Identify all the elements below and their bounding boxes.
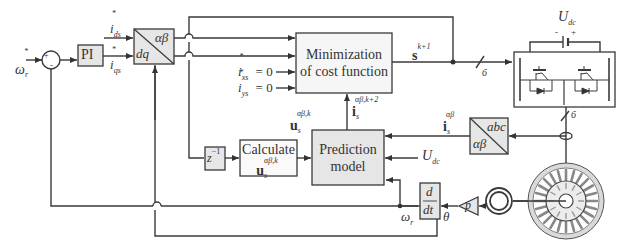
iqs-ref-label: iqs* — [110, 58, 125, 75]
dq-block-bottom-label: dq — [136, 47, 149, 60]
dc-voltage-label: Udc — [422, 149, 440, 166]
rotor-speed-label: ωr — [401, 210, 413, 227]
pole-pairs-label: p — [465, 199, 471, 211]
ids-ref-label: ids* — [110, 22, 125, 39]
calculate-label: Calculate usαβ,k — [240, 141, 297, 184]
switch-state-label: sk+1 — [412, 48, 430, 63]
inverter — [514, 52, 615, 107]
abc-block-bottom-label: αβ — [473, 137, 486, 150]
dc-plus: + — [571, 28, 576, 37]
derivative-num: d — [426, 185, 433, 198]
measured-current-label: isαβ — [443, 119, 458, 136]
dc-source-label: Udc — [558, 10, 576, 27]
pi-label: PI — [81, 48, 93, 62]
bus-width-top: 6 — [482, 68, 487, 78]
sum-plus-sign: + — [44, 52, 49, 60]
bus-width-right: 6 — [571, 110, 576, 120]
minimization-label: Minimization of cost function — [296, 46, 392, 80]
abc-block-top-label: abc — [487, 120, 506, 133]
diagram-canvas — [0, 0, 633, 243]
prediction-model-label: Prediction model — [312, 141, 384, 175]
dq-block-top-label: αβ — [155, 31, 168, 44]
rotor-angle-label: θ — [443, 210, 449, 223]
predicted-current-label: isαβ,k+2 — [352, 104, 382, 121]
speed-ref-label: ωr* — [15, 62, 32, 79]
iys-ref-label: iys* = 0 — [238, 81, 273, 98]
derivative-den: dt — [423, 203, 433, 216]
dc-minus: - — [555, 28, 558, 37]
sum-minus-sign: - — [50, 61, 53, 70]
voltage-vector-label: usαβ,k — [290, 118, 315, 135]
delay-label: z−1 — [207, 151, 220, 164]
